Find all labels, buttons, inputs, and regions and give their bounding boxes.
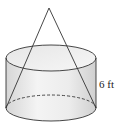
cylinder-top xyxy=(6,45,96,71)
cone-in-cylinder-figure: 6 ft xyxy=(0,0,120,130)
height-label: 6 ft xyxy=(99,78,114,90)
geometry-drawing xyxy=(0,0,120,130)
